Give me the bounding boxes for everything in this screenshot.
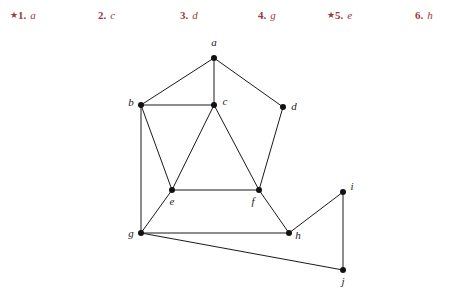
exercise-answer: d [192, 9, 198, 21]
graph-edge-c-e [172, 105, 214, 190]
graph-vertex-label-a: a [211, 36, 217, 48]
star-icon: ★ [10, 10, 18, 20]
graph-svg: abcdefghij [0, 30, 470, 303]
exercise-answer: a [30, 9, 36, 21]
graph-vertex-label-j: j [339, 275, 344, 287]
graph-vertex-label-b: b [128, 96, 134, 108]
exercise-item-2: 2.c [98, 9, 115, 21]
exercise-answer: c [110, 9, 115, 21]
page-root: ★1.a2.c3.d4.g★5.e6.h abcdefghij [0, 0, 470, 303]
exercise-answer: e [347, 9, 352, 21]
exercise-number: 5. [335, 9, 343, 21]
graph-vertex-label-g: g [128, 227, 134, 239]
exercise-number: 4. [258, 9, 266, 21]
graph-vertex-i [340, 189, 346, 195]
exercise-number: 3. [180, 9, 188, 21]
graph-vertex-f [256, 187, 262, 193]
exercise-answer-row: ★1.a2.c3.d4.g★5.e6.h [0, 0, 470, 30]
graph-edge-a-b [141, 58, 214, 105]
graph-vertex-a [211, 55, 217, 61]
exercise-item-6: 6.h [415, 9, 433, 21]
graph-vertex-label-h: h [295, 229, 301, 241]
exercise-answer: g [270, 9, 276, 21]
graph-vertex-label-e: e [170, 195, 175, 207]
exercise-item-4: 4.g [258, 9, 276, 21]
exercise-answer: h [427, 9, 433, 21]
graph-edge-b-e [141, 105, 172, 190]
graph-vertex-b [138, 102, 144, 108]
graph-edge-f-h [259, 190, 289, 233]
graph-vertex-label-f: f [251, 195, 256, 207]
exercise-item-5: ★5.e [327, 9, 352, 21]
exercise-item-3: 3.d [180, 9, 198, 21]
exercise-number: 1. [18, 9, 26, 21]
graph-vertex-e [169, 187, 175, 193]
graph-vertex-h [286, 230, 292, 236]
graph-edge-c-f [214, 105, 259, 190]
edge-layer [141, 58, 343, 270]
exercise-number: 2. [98, 9, 106, 21]
graph-vertex-c [211, 102, 217, 108]
exercise-number: 6. [415, 9, 423, 21]
star-icon: ★ [327, 10, 335, 20]
graph-figure: abcdefghij [0, 30, 470, 303]
graph-edge-g-j [141, 233, 343, 270]
exercise-item-1: ★1.a [10, 9, 36, 21]
graph-vertex-d [280, 104, 286, 110]
vertex-layer [138, 55, 346, 273]
graph-edge-e-g [141, 190, 172, 233]
graph-vertex-j [340, 267, 346, 273]
graph-edge-d-f [259, 107, 283, 190]
graph-vertex-label-d: d [291, 100, 297, 112]
graph-edge-h-i [289, 192, 343, 233]
graph-vertex-label-c: c [223, 95, 228, 107]
graph-vertex-label-i: i [350, 180, 353, 192]
graph-vertex-g [138, 230, 144, 236]
